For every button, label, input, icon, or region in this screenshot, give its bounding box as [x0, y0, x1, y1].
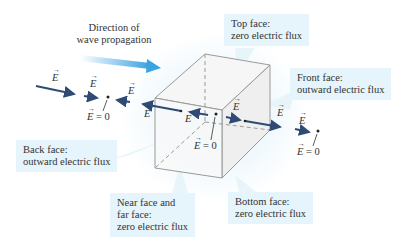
callout-bottom-face: Bottom face: zero electric flux — [228, 192, 313, 224]
callout-line: far face: — [117, 209, 188, 221]
e-field-arrow — [84, 96, 97, 98]
callout-line: zero electric flux — [235, 208, 306, 220]
e-vector-label: →E — [90, 78, 96, 89]
callout-near-far-faces: Near face and far face: zero electric fl… — [110, 193, 195, 237]
e-vector-label: →E — [144, 108, 150, 119]
e-vector-label: →E — [233, 101, 239, 112]
e-vector-label: →E — [299, 115, 305, 126]
callout-line: zero electric flux — [231, 30, 302, 42]
propagation-label: Direction of wave propagation — [72, 22, 156, 46]
callout-line: outward electric flux — [23, 156, 110, 168]
e-vector-label: →E — [128, 85, 134, 96]
zero-field-label: →E = 0 — [194, 140, 217, 151]
zero-field-label: →E = 0 — [87, 111, 110, 122]
callout-front-face: Front face: outward electric flux — [290, 68, 391, 100]
propagation-label-line1: Direction of — [72, 22, 156, 34]
propagation-label-line2: wave propagation — [72, 34, 156, 46]
callout-line: zero electric flux — [117, 221, 188, 233]
e-vector-label: →E — [277, 107, 283, 118]
zero-field-label: →E = 0 — [297, 146, 320, 157]
callout-line: Near face and — [117, 197, 188, 209]
callout-top-face: Top face: zero electric flux — [224, 14, 309, 46]
callout-line: Top face: — [231, 18, 302, 30]
callout-line: Bottom face: — [235, 196, 306, 208]
propagation-arrow-icon — [80, 58, 161, 73]
callout-line: outward electric flux — [297, 84, 384, 96]
em-wave-flux-diagram: Direction of wave propagation →E →E →E →… — [0, 0, 419, 241]
callout-back-face: Back face: outward electric flux — [16, 140, 117, 172]
e-field-arrow — [36, 86, 74, 94]
diagram-graphics — [0, 0, 419, 241]
e-vector-label: →E — [52, 72, 58, 83]
callout-line: Back face: — [23, 144, 110, 156]
e-vector-label: →E — [185, 113, 191, 124]
callout-line: Front face: — [297, 72, 384, 84]
